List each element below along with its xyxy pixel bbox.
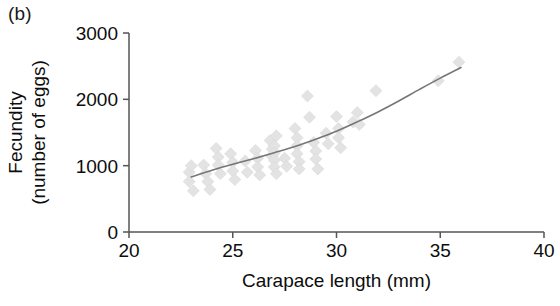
- data-point: [293, 163, 305, 175]
- y-axis-title-line1: Fecundity: [5, 91, 26, 174]
- data-point: [370, 85, 382, 97]
- data-point: [304, 111, 316, 123]
- y-tick-label: 3000: [76, 23, 118, 44]
- y-tick-label: 2000: [76, 89, 118, 110]
- figure-panel-b: (b) 20253035400100020003000Carapace leng…: [0, 0, 560, 306]
- x-tick-label: 40: [533, 240, 554, 261]
- data-point: [453, 56, 465, 68]
- x-tick-label: 20: [118, 240, 139, 261]
- data-point: [333, 132, 345, 144]
- y-tick-label: 0: [107, 222, 118, 243]
- data-point: [241, 166, 253, 178]
- data-point: [289, 123, 301, 135]
- axes-layer: [123, 33, 544, 238]
- y-axis-title-line2: (number of eggs): [28, 60, 49, 205]
- x-tick-label: 25: [222, 240, 243, 261]
- data-point: [312, 163, 324, 175]
- data-point: [198, 159, 210, 171]
- data-point: [225, 148, 237, 160]
- y-tick-label: 1000: [76, 156, 118, 177]
- data-point: [335, 142, 347, 154]
- data-point: [210, 142, 222, 154]
- data-point: [310, 153, 322, 165]
- data-point: [227, 165, 239, 177]
- data-point: [322, 138, 334, 150]
- data-point: [331, 111, 343, 123]
- x-axis-title: Carapace length (mm): [242, 270, 431, 291]
- scatter-plot: 20253035400100020003000Carapace length (…: [0, 0, 560, 306]
- data-point: [301, 90, 313, 102]
- x-tick-label: 35: [430, 240, 451, 261]
- data-point: [229, 174, 241, 186]
- x-tick-label: 30: [326, 240, 347, 261]
- data-markers-layer: [183, 56, 465, 197]
